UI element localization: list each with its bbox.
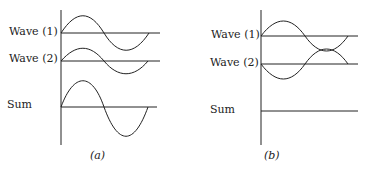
label-a-wave2: Wave (2) — [9, 52, 58, 65]
label-b-wave1: Wave (1) — [211, 28, 260, 41]
label-b-sum: Sum — [210, 103, 235, 116]
caption-b: (b) — [264, 149, 280, 162]
label-b-wave2: Wave (2) — [210, 56, 259, 69]
label-a-sum: Sum — [7, 98, 32, 111]
label-a-wave1: Wave (1) — [9, 25, 58, 38]
wave-a-sum — [61, 81, 148, 137]
caption-a: (a) — [90, 149, 105, 162]
